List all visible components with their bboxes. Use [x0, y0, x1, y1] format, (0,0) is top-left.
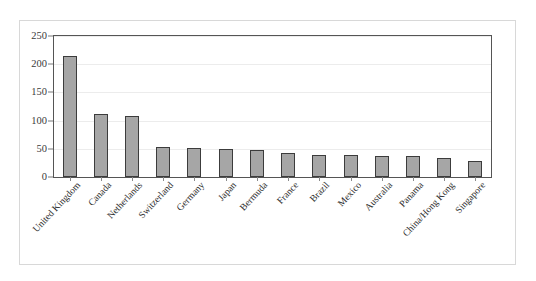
bar-slot — [116, 36, 147, 177]
x-axis-category-labels: United KingdomCanadaNetherlandsSwitzerla… — [53, 180, 492, 260]
bar — [406, 156, 420, 177]
bar-slot — [429, 36, 460, 177]
bar-slot — [54, 36, 85, 177]
bar-slot — [179, 36, 210, 177]
bar — [468, 161, 482, 177]
bar-slot — [460, 36, 491, 177]
bar — [281, 153, 295, 177]
bar — [250, 150, 264, 177]
x-axis-tick-label: Panama — [397, 180, 425, 209]
bar — [156, 147, 170, 177]
y-axis-tick-mark — [48, 177, 53, 178]
x-axis-tick-label: Mexico — [336, 180, 363, 208]
bar-slot — [366, 36, 397, 177]
bar — [94, 114, 108, 177]
bar-slot — [304, 36, 335, 177]
x-axis-tick-label: Germany — [175, 180, 206, 213]
y-axis-tick-mark — [48, 148, 53, 149]
y-axis-tick-mark — [48, 36, 53, 37]
x-axis-tick-label: Singapore — [454, 180, 488, 215]
bar-slot — [210, 36, 241, 177]
y-axis-tick-mark — [48, 92, 53, 93]
x-axis-tick-label: Japan — [216, 180, 238, 203]
x-axis-tick-label: France — [275, 180, 300, 206]
bar — [63, 56, 77, 177]
x-axis-tick-label: Brazil — [308, 180, 331, 204]
bar — [187, 148, 201, 177]
bar — [437, 158, 451, 177]
bar-series — [54, 36, 491, 177]
x-axis-tick-label: Canada — [86, 180, 113, 208]
x-axis-tick-label: Australia — [363, 180, 394, 212]
x-axis-tick-label: Bermuda — [238, 180, 269, 212]
bar-slot — [273, 36, 304, 177]
bar-slot — [335, 36, 366, 177]
bar-slot — [85, 36, 116, 177]
bar — [375, 156, 389, 177]
bar — [344, 155, 358, 177]
bar-chart-figure: 050100150200250 United KingdomCanadaNeth… — [0, 0, 536, 281]
plot-area: 050100150200250 — [53, 35, 492, 178]
bar — [219, 149, 233, 177]
y-axis-tick-mark — [48, 64, 53, 65]
y-axis-tick-mark — [48, 120, 53, 121]
bar-slot — [148, 36, 179, 177]
bar — [312, 155, 326, 177]
bar — [125, 116, 139, 177]
bar-slot — [241, 36, 272, 177]
bar-slot — [397, 36, 428, 177]
